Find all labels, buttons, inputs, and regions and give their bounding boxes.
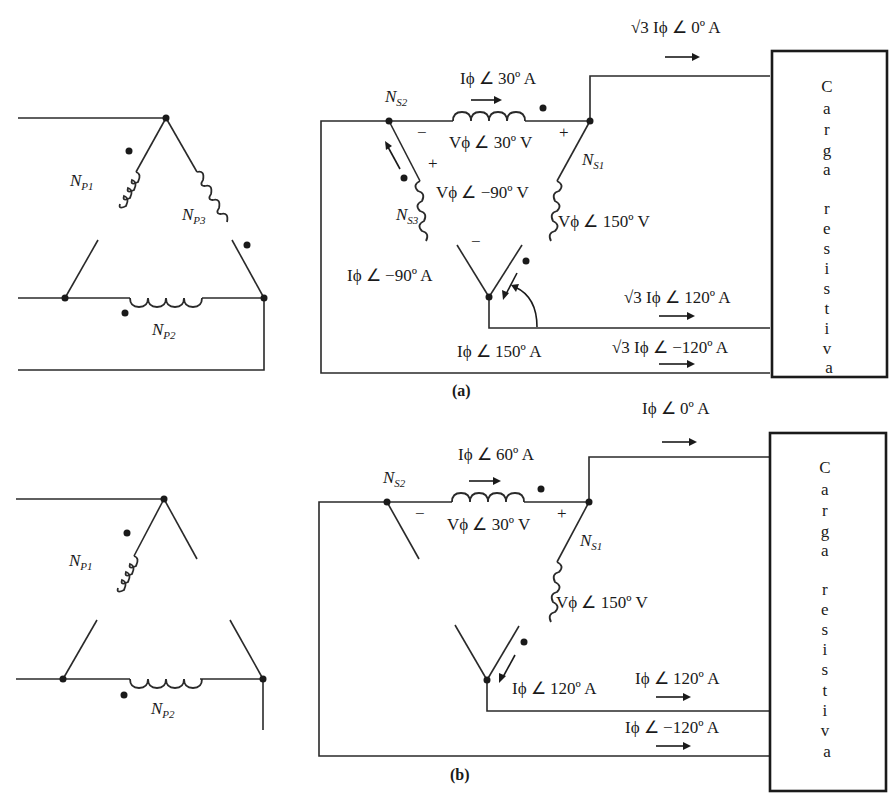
resistive-load-b: C a r g a r e s i s t i v a	[770, 433, 886, 791]
node-dot	[62, 295, 69, 302]
coil-np1-icon	[120, 172, 140, 208]
line-current-top: √3 Iϕ ∠ 0º A	[631, 18, 721, 37]
node-dot	[384, 499, 391, 506]
node-dot	[587, 118, 594, 125]
coil-ns1-icon	[550, 562, 562, 622]
arrow-right-icon	[687, 360, 695, 368]
coil-ns1-icon	[550, 181, 562, 241]
label-i-ns2: Iϕ ∠ 60º A	[458, 445, 535, 464]
node-dot	[586, 499, 593, 506]
polarity-dot	[521, 639, 528, 646]
label-np3: NP3	[181, 205, 206, 226]
node-dot	[260, 676, 267, 683]
polarity-dot	[538, 486, 545, 493]
coil-ns2-icon	[453, 112, 525, 121]
node-dot	[386, 118, 393, 125]
polarity-dot	[122, 310, 129, 317]
resistive-load-a: C a r g a r e s i s t i v a	[772, 51, 887, 377]
minus-sign: −	[417, 123, 427, 142]
label-v-ns1: Vϕ ∠ 150º V	[558, 212, 650, 231]
line-current-bottom: √3 Iϕ ∠ −120º A	[612, 338, 729, 357]
label-ns1: NS1	[581, 150, 604, 171]
arrow-right-icon	[687, 312, 695, 320]
polarity-dot	[121, 692, 128, 699]
label-v-ns2: Vϕ ∠ 30º V	[447, 515, 531, 534]
label-np2: NP2	[150, 699, 175, 720]
coil-ns2-icon	[452, 493, 524, 502]
polarity-dot	[124, 530, 131, 537]
node-dot	[484, 677, 491, 684]
label-ns2: NS2	[384, 87, 408, 108]
minus-sign: −	[415, 504, 425, 523]
label-ns1: NS1	[579, 531, 602, 552]
polarity-dot	[523, 258, 530, 265]
arrow-right-icon	[683, 693, 691, 701]
arrow-right-icon	[493, 477, 501, 485]
label-ns3: NS3	[395, 205, 419, 226]
label-i-ns2: Iϕ ∠ 30º A	[460, 69, 537, 88]
panel-a: NP1 NP3 NP2	[18, 18, 887, 400]
label-v-ns1: Vϕ ∠ 150º V	[556, 593, 648, 612]
label-np2: NP2	[151, 320, 176, 341]
coil-np1-icon	[118, 556, 138, 592]
plus-sign: +	[428, 154, 438, 173]
line-current-bottom: Iϕ ∠ −120º A	[625, 718, 720, 737]
label-np1: NP1	[68, 551, 93, 572]
secondary-delta-a: NS2 Iϕ ∠ 30º A Vϕ ∠ 30º V − + + NS1 Vϕ ∠…	[321, 18, 770, 373]
node-dot	[161, 496, 168, 503]
arrow-right-icon	[689, 438, 697, 446]
caption-b: (b)	[450, 766, 470, 784]
caption-a: (a)	[452, 382, 471, 400]
plus-sign: +	[557, 504, 567, 523]
primary-delta-a: NP1 NP3 NP2	[18, 115, 268, 371]
arrow-right-icon	[494, 96, 502, 104]
node-dot	[486, 294, 493, 301]
label-i-ns1: Iϕ ∠ 120º A	[512, 679, 597, 698]
panel-b: NP1 NP2 NS2 Iϕ ∠ 60º A	[16, 399, 886, 791]
label-v-ns2: Vϕ ∠ 30º V	[449, 133, 533, 152]
line-current-middle: Iϕ ∠ 120º A	[635, 669, 720, 688]
node-dot	[163, 115, 170, 122]
secondary-open-delta-b: NS2 Iϕ ∠ 60º A Vϕ ∠ 30º V − + NS1 Vϕ ∠ 1…	[319, 399, 770, 756]
line-current-top: Iϕ ∠ 0º A	[642, 399, 710, 418]
polarity-dot	[540, 105, 547, 112]
primary-open-delta-b: NP1 NP2	[16, 496, 267, 731]
polarity-dot	[401, 175, 408, 182]
transformer-diagram: NP1 NP3 NP2	[0, 0, 896, 804]
arrow-right-icon	[683, 742, 691, 750]
label-i-ns1: Iϕ ∠ 150º A	[457, 342, 542, 361]
minus-sign: −	[471, 232, 481, 251]
plus-sign: +	[559, 123, 569, 142]
arrow-right-icon	[692, 53, 700, 61]
line-current-middle: √3 Iϕ ∠ 120º A	[624, 288, 731, 307]
coil-ns3-icon	[415, 181, 427, 241]
node-dot	[261, 295, 268, 302]
coil-np2-icon	[130, 679, 202, 688]
label-np1: NP1	[69, 171, 94, 192]
polarity-dot	[244, 242, 251, 249]
polarity-dot	[126, 148, 133, 155]
label-v-ns3: Vϕ ∠ −90º V	[436, 183, 530, 202]
node-dot	[60, 676, 67, 683]
label-ns2: NS2	[382, 468, 406, 489]
label-i-ns3: Iϕ ∠ −90º A	[347, 266, 433, 285]
coil-np2-icon	[130, 298, 202, 307]
